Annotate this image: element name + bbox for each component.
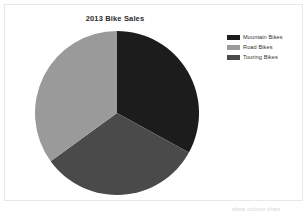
- pie-slice-group: [35, 31, 199, 195]
- legend-label-road-bikes: Road Bikes: [243, 43, 273, 51]
- legend-swatch-icon-road-bikes: [227, 45, 240, 50]
- legend-item-mountain-bikes[interactable]: Mountain Bikes: [227, 33, 301, 41]
- legend-swatch-icon-mountain-bikes: [227, 35, 240, 40]
- legend-label-mountain-bikes: Mountain Bikes: [243, 33, 283, 41]
- chart-container: 2013 Bike Sales Mountain Bikes Road Bike…: [4, 4, 303, 201]
- legend-item-road-bikes[interactable]: Road Bikes: [227, 43, 301, 51]
- chart-legend: Mountain Bikes Road Bikes Touring Bikes: [227, 33, 301, 63]
- footer-note[interactable]: show column chart: [232, 206, 280, 212]
- legend-label-touring-bikes: Touring Bikes: [243, 53, 278, 61]
- legend-item-touring-bikes[interactable]: Touring Bikes: [227, 53, 301, 61]
- pie-chart-svg: [34, 30, 200, 196]
- legend-swatch-icon-touring-bikes: [227, 55, 240, 60]
